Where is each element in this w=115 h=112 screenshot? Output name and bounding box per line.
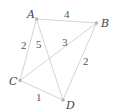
graph-diagram: A B C D 4 2 5 3 2 1 — [0, 0, 115, 112]
weight-label-a-b: 4 — [64, 8, 70, 20]
node-label-a: A — [26, 8, 35, 21]
edge-b-c — [20, 23, 97, 81]
weight-label-b-c: 3 — [62, 36, 68, 48]
edge-c-d — [20, 81, 63, 101]
weight-label-a-c: 2 — [21, 39, 27, 51]
node-b — [95, 21, 99, 25]
edge-b-d — [63, 23, 97, 100]
node-c — [18, 79, 22, 83]
node-a — [35, 17, 39, 21]
weight-label-b-d: 2 — [83, 55, 89, 67]
node-label-d: D — [65, 99, 75, 112]
weight-label-a-d: 5 — [36, 38, 42, 50]
node-labels: A B C D — [9, 8, 109, 112]
edge-a-d — [37, 19, 64, 100]
node-label-b: B — [100, 17, 109, 30]
node-d — [61, 98, 65, 102]
node-label-c: C — [9, 75, 18, 88]
weight-label-c-d: 1 — [36, 91, 42, 103]
